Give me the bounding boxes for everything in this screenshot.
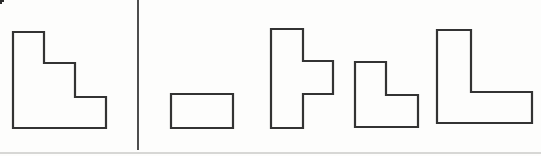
piece-t-shape [271, 29, 333, 128]
piece-rectangle [171, 94, 233, 128]
piece-large-l-shape [437, 30, 532, 123]
target-staircase-shape [13, 32, 106, 128]
piece-small-l-shape [355, 62, 418, 127]
worksheet-figure [0, 0, 541, 156]
shapes-canvas [0, 0, 541, 156]
corner-crop-mark [0, 0, 4, 4]
